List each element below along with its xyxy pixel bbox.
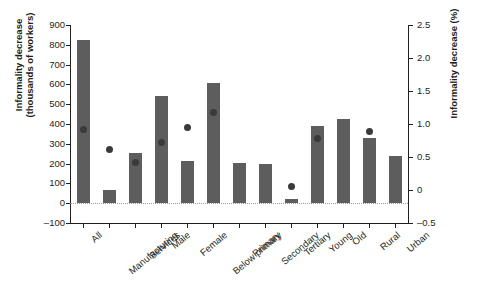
y-axis-right-tick (409, 124, 413, 125)
y-axis-left-tick-label: 300 (49, 139, 65, 149)
x-axis-tick (239, 224, 240, 228)
y-axis-right-tick (409, 25, 413, 26)
y-axis-left-tick (66, 25, 70, 26)
clipped-caption-top (0, 0, 481, 8)
marker-tertiary (288, 183, 295, 190)
zero-baseline (70, 203, 408, 204)
chart-figure: –1000100200300400500600700800900–0.500.5… (0, 0, 481, 296)
y-axis-left-tick-label: 600 (49, 79, 65, 89)
marker-all (80, 126, 87, 133)
x-axis-tick (317, 224, 318, 228)
marker-manufacturing (106, 146, 113, 153)
x-axis-label-old: Old (350, 230, 368, 247)
y-axis-right-tick (409, 91, 413, 92)
y-axis-left-tick-label: –100 (44, 218, 65, 228)
clipped-caption-bottom (0, 289, 481, 296)
x-axis-tick (343, 224, 344, 228)
y-axis-right-tick-label: 1.5 (417, 86, 430, 96)
y-axis-left-tick (66, 144, 70, 145)
bar-urban (389, 156, 402, 204)
plot-area: –1000100200300400500600700800900–0.500.5… (70, 25, 408, 223)
x-axis-tick (109, 224, 110, 228)
y-axis-right-tick-label: 0.5 (417, 152, 430, 162)
x-axis-label-all: All (89, 230, 104, 244)
y-axis-left-tick-label: 200 (49, 159, 65, 169)
marker-services (132, 159, 139, 166)
x-axis-tick (265, 224, 266, 228)
x-axis-tick (369, 224, 370, 228)
y-axis-left-tick (66, 223, 70, 224)
bar-female (181, 161, 194, 204)
x-axis-tick (291, 224, 292, 228)
y-axis-left-tick-label: 700 (49, 60, 65, 70)
y-axis-left-tick (66, 183, 70, 184)
y-axis-left-tick-label: 0 (60, 198, 65, 208)
y-axis-right-tick-label: 2.5 (417, 20, 430, 30)
y-axis-right-tick-label: 1.0 (417, 119, 430, 129)
y-axis-left-title-line-1: Informality decrease (13, 0, 24, 135)
x-axis-label-young: Young (327, 230, 354, 255)
marker-female (184, 124, 191, 131)
y-axis-left-tick (66, 65, 70, 66)
x-axis-tick (187, 224, 188, 228)
y-axis-left-tick-label: 100 (49, 178, 65, 188)
x-axis-label-female: Female (198, 230, 229, 258)
y-axis-right-tick-label: –0.5 (417, 218, 436, 228)
bar-all (77, 40, 90, 203)
y-axis-left-tick (66, 124, 70, 125)
bar-tertiary (285, 199, 298, 203)
bar-old (337, 119, 350, 203)
y-axis-left-tick-label: 500 (49, 99, 65, 109)
marker-below-primary (210, 109, 217, 116)
y-axis-right-tick (409, 223, 413, 224)
y-axis-right-tick (409, 157, 413, 158)
x-axis-tick (161, 224, 162, 228)
x-axis-tick (135, 224, 136, 228)
bar-primary (233, 163, 246, 204)
y-axis-left-tick (66, 45, 70, 46)
bar-rural (363, 138, 376, 203)
bar-secondary (259, 164, 272, 204)
y-axis-left-line (70, 25, 71, 223)
x-axis-tick (83, 224, 84, 228)
y-axis-left-tick (66, 164, 70, 165)
y-axis-left-title: Informality decrease(thousands of worker… (13, 0, 35, 135)
y-axis-left-tick-label: 900 (49, 20, 65, 30)
bar-male (155, 96, 168, 203)
x-axis-label-urban: Urban (405, 230, 431, 254)
y-axis-right-tick-label: 2.0 (417, 53, 430, 63)
x-axis-label-rural: Rural (378, 230, 402, 252)
y-axis-left-tick (66, 84, 70, 85)
bar-below-primary (207, 83, 220, 203)
bar-manufacturing (103, 190, 116, 203)
x-axis-tick (213, 224, 214, 228)
y-axis-right-tick (409, 58, 413, 59)
y-axis-left-tick-label: 400 (49, 119, 65, 129)
x-axis-tick (395, 224, 396, 228)
y-axis-right-title: Informality decrease (%) (448, 0, 459, 129)
marker-male (158, 139, 165, 146)
y-axis-left-tick-label: 800 (49, 40, 65, 50)
y-axis-left-tick (66, 203, 70, 204)
y-axis-left-title-line-2: (thousands of workers) (24, 0, 35, 135)
y-axis-right-tick-label: 0 (417, 185, 422, 195)
y-axis-right-tick (409, 190, 413, 191)
x-axis-label-primary: Primary (251, 230, 283, 259)
marker-rural (366, 128, 373, 135)
marker-young (314, 135, 321, 142)
y-axis-left-tick (66, 104, 70, 105)
